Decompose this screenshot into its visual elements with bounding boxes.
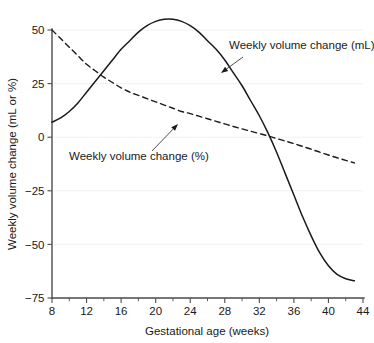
x-tick-label: 12 xyxy=(80,305,93,317)
x-tick-label: 32 xyxy=(253,305,266,317)
x-tick-label: 44 xyxy=(357,305,370,317)
x-tick-label: 28 xyxy=(218,305,231,317)
x-tick-label: 36 xyxy=(287,305,300,317)
chart-figure: 50250−25−50−75 8121620242832364044 Weekl… xyxy=(0,0,374,343)
y-axis-title: Weekly volume change (mL or %) xyxy=(6,78,18,250)
x-tick-label: 40 xyxy=(322,305,335,317)
x-axis-title: Gestational age (weeks) xyxy=(145,325,269,337)
chart-svg: 50250−25−50−75 8121620242832364044 Weekl… xyxy=(0,0,374,343)
annotation-label-2: Weekly volume change (%) xyxy=(69,150,209,162)
y-tick-label: 0 xyxy=(38,131,44,143)
y-tick-label: 50 xyxy=(32,24,45,36)
y-tick-label: −75 xyxy=(25,292,45,304)
y-tick-label: 25 xyxy=(32,78,45,90)
x-tick-label: 8 xyxy=(49,305,55,317)
x-tick-label: 24 xyxy=(184,305,197,317)
chart-background xyxy=(0,0,374,343)
x-tick-label: 16 xyxy=(115,305,128,317)
x-tick-label: 20 xyxy=(149,305,162,317)
annotation-label-1: Weekly volume change (mL) xyxy=(229,39,374,51)
y-tick-label: −25 xyxy=(25,185,45,197)
y-tick-label: −50 xyxy=(25,239,45,251)
